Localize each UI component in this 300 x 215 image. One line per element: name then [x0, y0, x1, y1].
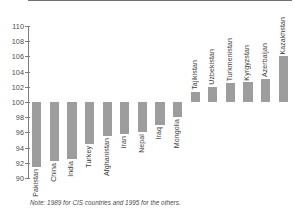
bar-label: Tajikistan: [191, 60, 198, 90]
y-tick-label-106: 106: [0, 52, 24, 61]
bar: [208, 87, 217, 102]
bar-label: China: [50, 163, 57, 182]
y-tick-label-108: 108: [0, 37, 24, 46]
bar-group: Nepal: [138, 26, 147, 178]
bar: [32, 102, 41, 167]
bar-label: Turkey: [85, 146, 92, 168]
bar-label: Turkmenistan: [226, 38, 233, 81]
bar: [155, 102, 164, 125]
bar-group: Kyrgyzstan: [243, 26, 252, 178]
y-tick-label-110: 110: [0, 22, 24, 31]
bar-group: Iraq: [155, 26, 164, 178]
y-tick-label-96: 96: [0, 128, 24, 137]
bar-group: Kazakhstan: [279, 26, 288, 178]
bar-label: Azerbaijan: [261, 43, 268, 77]
bar-label: Iraq: [155, 127, 162, 139]
bar: [243, 82, 252, 102]
y-tick-label-98: 98: [0, 113, 24, 122]
bar-series: PakistanChinaIndiaTurkeyAfghanistanIranN…: [28, 26, 292, 178]
y-tick-label-100: 100: [0, 98, 24, 107]
bar: [138, 102, 147, 132]
bar-group: Pakistan: [32, 26, 41, 178]
bar: [226, 83, 235, 102]
y-tick-label-102: 102: [0, 83, 24, 92]
bar-group: Mongolia: [173, 26, 182, 178]
bar: [173, 102, 182, 117]
bar-group: Afghanistan: [103, 26, 112, 178]
bar: [191, 92, 200, 102]
chart-note: Note: 1989 for CIS countries and 1995 fo…: [30, 199, 181, 206]
bar-group: Tajikistan: [191, 26, 200, 178]
y-tick-label-104: 104: [0, 68, 24, 77]
bar-label: Nepal: [138, 134, 145, 153]
bar-group: Iran: [120, 26, 129, 178]
y-tick-label-92: 92: [0, 159, 24, 168]
bar-label: Mongolia: [173, 119, 180, 148]
y-tick-label-94: 94: [0, 144, 24, 153]
bar-group: Turkmenistan: [226, 26, 235, 178]
bar-group: Turkey: [85, 26, 94, 178]
bar: [120, 102, 129, 134]
bar: [261, 79, 270, 102]
bar-label: Iran: [120, 136, 127, 148]
bar: [85, 102, 94, 144]
y-tick-label-90: 90: [0, 174, 24, 183]
bar-group: Azerbaijan: [261, 26, 270, 178]
y-tick-90: [25, 178, 30, 179]
bar: [279, 56, 288, 102]
bar: [50, 102, 59, 161]
bar-label: Pakistan: [32, 169, 39, 197]
bar-label: Kazakhstan: [279, 17, 286, 55]
bar-label: Uzbekistan: [208, 49, 215, 85]
bar-label: Kyrgyzstan: [243, 45, 250, 81]
bar: [67, 102, 76, 159]
baseline-100: [28, 0, 292, 1]
bar-label: India: [67, 161, 74, 177]
bar-group: Uzbekistan: [208, 26, 217, 178]
bar-group: India: [67, 26, 76, 178]
chart-container: 1101081061041021009896949290 PakistanChi…: [0, 0, 300, 215]
bar: [103, 102, 112, 136]
bar-label: Afghanistan: [103, 138, 110, 176]
bar-group: China: [50, 26, 59, 178]
